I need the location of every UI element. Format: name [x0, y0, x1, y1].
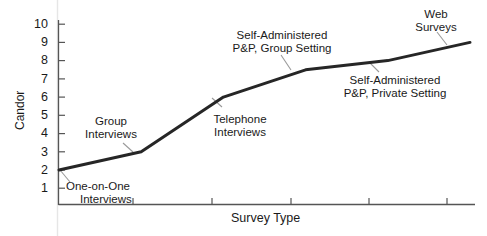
- annotation-one-on-one: One-on-One Interviews: [66, 180, 132, 205]
- annotation-web-surveys: Web Surveys: [405, 8, 467, 33]
- leader-group: [123, 143, 133, 152]
- annotation-sa-private-line2: P&P, Private Setting: [330, 87, 460, 100]
- y-tick-label-1: 1: [22, 182, 48, 195]
- annotation-telephone-interviews: Telephone Interviews: [200, 113, 280, 138]
- annotation-sa-group-line1: Self-Administered: [222, 29, 342, 42]
- annotation-one-on-one-line1: One-on-One: [66, 180, 132, 193]
- y-tick-label-9: 9: [22, 36, 48, 49]
- annotation-sa-group-line2: P&P, Group Setting: [222, 42, 342, 55]
- y-axis-ticks: [59, 24, 66, 188]
- annotation-web-line2: Surveys: [405, 21, 467, 34]
- leader-lines: [60, 32, 447, 182]
- y-tick-label-8: 8: [22, 54, 48, 67]
- annotation-one-on-one-line2: Interviews: [66, 193, 132, 206]
- annotation-group-interviews: Group Interviews: [76, 115, 146, 140]
- annotation-sa-private-line1: Self-Administered: [330, 74, 460, 87]
- y-tick-label-3: 3: [22, 146, 48, 159]
- y-axis-title: Candor: [14, 91, 26, 130]
- y-tick-label-10: 10: [22, 18, 48, 31]
- x-axis-title: Survey Type: [231, 212, 300, 225]
- x-axis-ticks: [133, 198, 447, 205]
- leader-web: [437, 32, 447, 45]
- annotation-telephone-line1: Telephone: [200, 113, 280, 126]
- y-tick-label-2: 2: [22, 164, 48, 177]
- annotation-group-line2: Interviews: [76, 128, 146, 141]
- y-tick-label-7: 7: [22, 73, 48, 86]
- annotation-group-line1: Group: [76, 115, 146, 128]
- leader-sa-group: [281, 55, 291, 70]
- candor-line-series: [59, 42, 470, 170]
- chart-figure: 10 9 8 7 6 5 4 3 2 1 Candor Survey Type …: [0, 0, 487, 236]
- annotation-web-line1: Web: [405, 8, 467, 21]
- annotation-sa-group-setting: Self-Administered P&P, Group Setting: [222, 29, 342, 54]
- annotation-telephone-line2: Interviews: [200, 126, 280, 139]
- annotation-sa-private-setting: Self-Administered P&P, Private Setting: [330, 74, 460, 99]
